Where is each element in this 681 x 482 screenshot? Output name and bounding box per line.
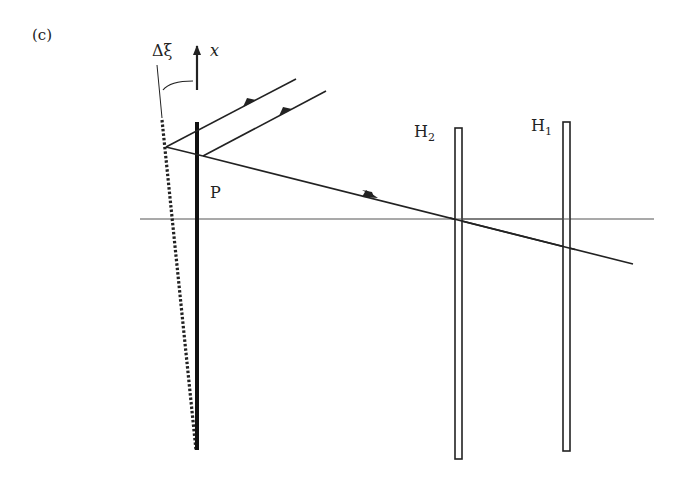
hologram-h1-plate <box>563 122 570 451</box>
hologram-h2-plate <box>455 128 462 459</box>
panel-label: (c) <box>32 26 52 44</box>
h2-label-base: H <box>414 122 428 141</box>
arrow-icon-upper-ray <box>243 98 256 107</box>
outgoing-ray-overlay <box>450 218 575 250</box>
x-axis-label: x <box>210 41 219 60</box>
optics-diagram: (c) x Δξ P H2 H1 <box>0 0 681 482</box>
tilted-plate-dotted <box>162 120 196 450</box>
tilt-reference-line <box>157 65 162 118</box>
plate-p-label: P <box>210 183 221 202</box>
tilt-angle-arc <box>163 81 193 90</box>
h2-label-sub: 2 <box>428 131 435 144</box>
hologram-h2-label: H2 <box>414 122 435 144</box>
incoming-ray-upper <box>166 79 296 147</box>
tilt-angle-label: Δξ <box>152 41 173 60</box>
h1-label-base: H <box>531 116 545 135</box>
h1-label-sub: 1 <box>545 125 552 138</box>
incoming-ray-lower <box>203 91 326 156</box>
arrow-icon-lower-ray <box>279 107 292 116</box>
hologram-h1-label: H1 <box>531 116 552 138</box>
